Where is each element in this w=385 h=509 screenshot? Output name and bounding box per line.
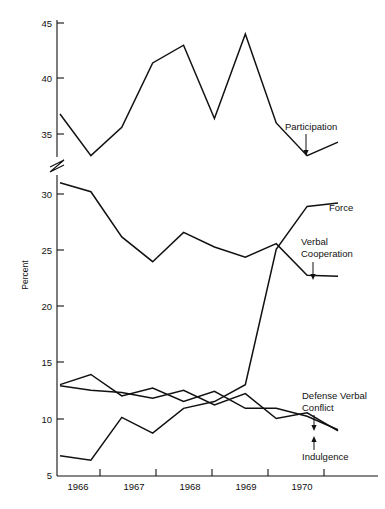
series-line-verbal-cooperation <box>60 183 338 277</box>
series-line-defense-verbal-conflict <box>60 374 338 429</box>
y-tick-label-40: 40 <box>41 73 52 84</box>
annotation-participation: Participation <box>285 121 337 156</box>
y-axis: 45 40 35 30 25 20 15 10 5 Percent <box>20 18 64 481</box>
annotation-label-verbal-cooperation-line2: Cooperation <box>301 248 353 259</box>
axis-break-icon <box>50 160 64 172</box>
x-axis: 1966 1967 1968 1969 1970 <box>57 469 378 492</box>
annotation-label-verbal-cooperation-line1: Verbal <box>301 236 328 247</box>
y-tick-label-15: 15 <box>41 357 52 368</box>
y-axis-title: Percent <box>20 260 30 290</box>
y-tick-label-45: 45 <box>41 18 52 29</box>
verbal-cooperation-arrowhead-icon <box>310 274 315 280</box>
y-tick-label-20: 20 <box>41 301 52 312</box>
annotation-label-defense-line1: Defense Verbal <box>302 390 367 401</box>
annotation-defense-verbal-conflict: Defense Verbal Conflict <box>302 390 367 431</box>
annotation-indulgence: Indulgence <box>302 436 348 462</box>
x-tick-label-1966: 1966 <box>67 481 88 492</box>
annotation-label-force: Force <box>329 202 353 213</box>
series-group <box>60 34 338 460</box>
annotation-label-indulgence: Indulgence <box>302 451 348 462</box>
x-tick-label-1967: 1967 <box>123 481 144 492</box>
x-tick-label-1970: 1970 <box>291 481 312 492</box>
indulgence-arrowhead-icon <box>311 436 316 442</box>
annotation-force: Force <box>329 202 353 213</box>
defense-arrowhead-icon <box>311 425 316 431</box>
annotation-label-defense-line2: Conflict <box>302 402 334 413</box>
y-tick-label-5: 5 <box>47 470 52 481</box>
y-tick-label-10: 10 <box>41 414 52 425</box>
series-line-indulgence <box>60 386 338 431</box>
line-chart: 45 40 35 30 25 20 15 10 5 Percent 1966 1… <box>0 0 385 509</box>
y-tick-label-35: 35 <box>41 129 52 140</box>
annotation-verbal-cooperation: Verbal Cooperation <box>301 236 353 280</box>
series-line-force <box>60 203 338 460</box>
y-tick-label-25: 25 <box>41 245 52 256</box>
x-tick-label-1969: 1969 <box>235 481 256 492</box>
series-line-participation <box>60 34 338 156</box>
x-tick-label-1968: 1968 <box>179 481 200 492</box>
y-tick-label-30: 30 <box>41 189 52 200</box>
annotation-label-participation: Participation <box>285 121 337 132</box>
chart-svg: 45 40 35 30 25 20 15 10 5 Percent 1966 1… <box>0 0 385 509</box>
